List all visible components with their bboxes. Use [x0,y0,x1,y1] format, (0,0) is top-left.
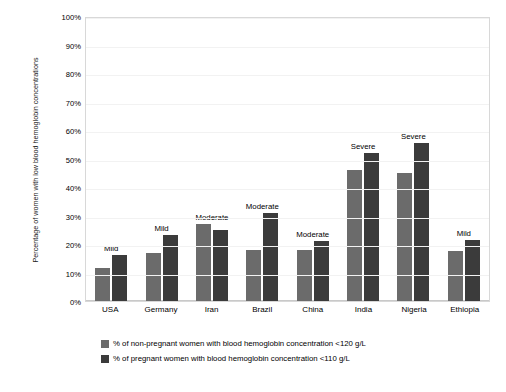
legend-label: % of non-pregnant women with blood hemog… [113,339,366,348]
x-axis-tick-label: USA [86,305,134,321]
severity-annotation: Moderate [246,202,279,211]
bar-group: Moderate [188,18,236,301]
y-axis-title-text: Percentage of women with low blood hemog… [31,17,40,302]
gridline [86,218,489,219]
x-axis-tick-labels: USAGermanyIranBrazilChinaIndiaNigeriaEth… [85,305,490,321]
bar [146,253,161,301]
y-axis-title: Percentage of women with low blood hemog… [22,17,48,302]
severity-annotation: Severe [351,142,376,151]
anemia-prevalence-bar-chart: Percentage of women with low blood hemog… [0,0,506,392]
severity-annotation: Mild [154,224,168,233]
y-axis-tick-label: 0% [70,298,81,307]
y-axis-tick-label: 80% [66,70,81,79]
severity-annotation: Severe [401,132,426,141]
y-axis-tick-label: 60% [66,127,81,136]
bar-group: Severe [389,18,437,301]
bar-group: Moderate [289,18,337,301]
bar [95,268,110,301]
legend-swatch [101,340,109,348]
bar [397,173,412,301]
gridline [86,275,489,276]
gridline [86,47,489,48]
x-axis-tick-label: Ethiopia [441,305,489,321]
bar [196,224,211,301]
y-axis-tick-label: 20% [66,241,81,250]
x-axis-tick-label: China [289,305,337,321]
bar [465,240,480,301]
bar [263,213,278,301]
bar [314,241,329,301]
y-axis-tick-labels: 100%90%80%70%60%50%40%30%20%10%0% [48,0,84,392]
bar [364,153,379,301]
bar-group: Mild [87,18,135,301]
legend-swatch [101,355,109,363]
x-axis-tick-label: Brazil [238,305,286,321]
y-axis-tick-label: 70% [66,98,81,107]
x-axis-tick-label: Nigeria [390,305,438,321]
gridline [86,75,489,76]
bar [213,230,228,301]
gridline [86,104,489,105]
bar [448,251,463,301]
bar-group: Mild [138,18,186,301]
bar-groups: MildMildModerateModerateModerateSevereSe… [86,18,489,301]
x-axis-tick-label: Iran [188,305,236,321]
y-axis-tick-label: 10% [66,269,81,278]
chart-legend: % of non-pregnant women with blood hemog… [101,337,461,367]
legend-item: % of pregnant women with blood hemoglobi… [101,352,461,365]
y-axis-tick-label: 50% [66,155,81,164]
legend-label: % of pregnant women with blood hemoglobi… [113,354,350,363]
gridline [86,18,489,19]
x-axis-tick-label: India [339,305,387,321]
bar-group: Mild [440,18,488,301]
y-axis-tick-label: 40% [66,184,81,193]
gridline [86,246,489,247]
y-axis-tick-label: 30% [66,212,81,221]
gridline [86,132,489,133]
y-axis-tick-label: 100% [62,13,81,22]
severity-annotation: Mild [457,229,471,238]
bar-group: Severe [339,18,387,301]
gridline [86,161,489,162]
x-axis-tick-label: Germany [137,305,185,321]
severity-annotation: Moderate [296,230,329,239]
bar [112,255,127,301]
plot-area: MildMildModerateModerateModerateSevereSe… [85,17,490,302]
bar [414,143,429,301]
bar-group: Moderate [238,18,286,301]
legend-item: % of non-pregnant women with blood hemog… [101,337,461,350]
y-axis-tick-label: 90% [66,41,81,50]
gridline [86,189,489,190]
